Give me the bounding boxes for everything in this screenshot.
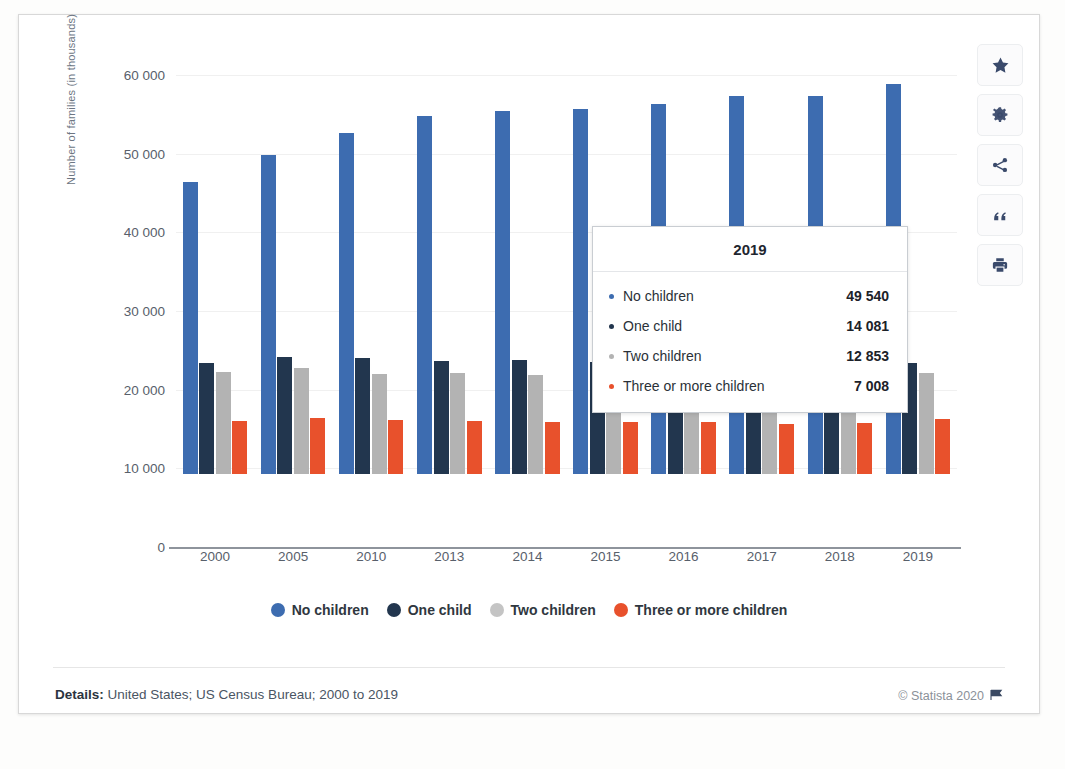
bar-group[interactable] bbox=[332, 75, 410, 474]
tooltip-row: Two children12 853 bbox=[593, 341, 907, 371]
legend-swatch-icon bbox=[387, 603, 401, 617]
y-tick-label: 40 000 bbox=[79, 225, 165, 240]
tooltip-row: Three or more children7 008 bbox=[593, 371, 907, 401]
favorite-star-button[interactable] bbox=[977, 44, 1023, 86]
bar[interactable] bbox=[919, 373, 934, 474]
bar[interactable] bbox=[339, 133, 354, 474]
chart-toolbar[interactable] bbox=[977, 44, 1029, 286]
tooltip-row-value: 49 540 bbox=[846, 288, 889, 304]
bar[interactable] bbox=[701, 422, 716, 474]
tooltip-series-dot-icon bbox=[609, 324, 614, 329]
x-tick-label: 2018 bbox=[801, 549, 879, 564]
x-tick-label: 2019 bbox=[879, 549, 957, 564]
print-icon bbox=[991, 256, 1009, 274]
chart-legend: No childrenOne childTwo childrenThree or… bbox=[19, 602, 1039, 618]
bar[interactable] bbox=[623, 422, 638, 474]
legend-swatch-icon bbox=[614, 603, 628, 617]
bar[interactable] bbox=[779, 424, 794, 474]
details-label: Details: bbox=[55, 687, 104, 702]
x-tick-label: 2013 bbox=[410, 549, 488, 564]
details-text: United States; US Census Bureau; 2000 to… bbox=[108, 687, 398, 702]
bar[interactable] bbox=[372, 374, 387, 474]
quote-icon bbox=[991, 206, 1010, 225]
bar[interactable] bbox=[277, 357, 292, 474]
tooltip-series-dot-icon bbox=[609, 294, 614, 299]
bar[interactable] bbox=[857, 423, 872, 474]
flag-icon bbox=[990, 689, 1003, 704]
tooltip-series-dot-icon bbox=[609, 384, 614, 389]
legend-label: Two children bbox=[511, 602, 596, 618]
x-tick-label: 2000 bbox=[176, 549, 254, 564]
x-tick-label: 2015 bbox=[566, 549, 644, 564]
x-tick-label: 2014 bbox=[488, 549, 566, 564]
bar[interactable] bbox=[232, 421, 247, 474]
bar[interactable] bbox=[450, 373, 465, 474]
tooltip-row-value: 12 853 bbox=[846, 348, 889, 364]
bar[interactable] bbox=[294, 368, 309, 474]
tooltip-row-value: 14 081 bbox=[846, 318, 889, 334]
bar-group[interactable] bbox=[410, 75, 488, 474]
legend-label: Three or more children bbox=[635, 602, 787, 618]
bar[interactable] bbox=[216, 372, 231, 474]
legend-item[interactable]: Three or more children bbox=[614, 602, 787, 618]
x-tick-label: 2017 bbox=[723, 549, 801, 564]
legend-swatch-icon bbox=[490, 603, 504, 617]
favorite-star-icon bbox=[991, 56, 1010, 75]
y-axis-title: Number of families (in thousands) bbox=[65, 0, 77, 185]
settings-gear-button[interactable] bbox=[977, 94, 1023, 136]
bar[interactable] bbox=[388, 420, 403, 474]
chart-card: Number of families (in thousands) 010 00… bbox=[18, 14, 1040, 714]
bar[interactable] bbox=[417, 116, 432, 474]
y-tick-label: 0 bbox=[79, 540, 165, 555]
y-tick-label: 10 000 bbox=[79, 461, 165, 476]
bar[interactable] bbox=[310, 418, 325, 474]
bar[interactable] bbox=[935, 419, 950, 474]
bar[interactable] bbox=[183, 182, 198, 474]
y-tick-label: 60 000 bbox=[79, 68, 165, 83]
legend-label: One child bbox=[408, 602, 472, 618]
footer-divider bbox=[53, 667, 1005, 668]
details-line: Details: United States; US Census Bureau… bbox=[55, 687, 398, 702]
bar[interactable] bbox=[467, 421, 482, 474]
print-button[interactable] bbox=[977, 244, 1023, 286]
bar[interactable] bbox=[545, 422, 560, 474]
tooltip-row-label: Three or more children bbox=[623, 378, 842, 394]
tooltip-row: One child14 081 bbox=[593, 311, 907, 341]
legend-swatch-icon bbox=[271, 603, 285, 617]
tooltip-series-dot-icon bbox=[609, 354, 614, 359]
x-tick-label: 2005 bbox=[254, 549, 332, 564]
copyright-text: © Statista 2020 bbox=[898, 689, 984, 703]
y-tick-label: 20 000 bbox=[79, 382, 165, 397]
tooltip-rows: No children49 540One child14 081Two chil… bbox=[593, 272, 907, 412]
tooltip-row-label: One child bbox=[623, 318, 834, 334]
bar[interactable] bbox=[434, 361, 449, 474]
x-tick-label: 2010 bbox=[332, 549, 410, 564]
tooltip-row: No children49 540 bbox=[593, 281, 907, 311]
bar[interactable] bbox=[261, 155, 276, 474]
share-icon bbox=[991, 156, 1009, 174]
bar[interactable] bbox=[573, 109, 588, 474]
copyright: © Statista 2020 bbox=[898, 689, 1003, 704]
tooltip-row-label: Two children bbox=[623, 348, 834, 364]
bar[interactable] bbox=[199, 363, 214, 474]
bar[interactable] bbox=[355, 358, 370, 474]
tooltip-row-label: No children bbox=[623, 288, 834, 304]
legend-item[interactable]: Two children bbox=[490, 602, 596, 618]
x-tick-label: 2016 bbox=[645, 549, 723, 564]
bar[interactable] bbox=[528, 375, 543, 474]
bar[interactable] bbox=[495, 111, 510, 474]
bar-group[interactable] bbox=[488, 75, 566, 474]
y-tick-label: 30 000 bbox=[79, 304, 165, 319]
tooltip-title: 2019 bbox=[593, 227, 907, 272]
share-button[interactable] bbox=[977, 144, 1023, 186]
y-tick-label: 50 000 bbox=[79, 146, 165, 161]
legend-item[interactable]: One child bbox=[387, 602, 472, 618]
tooltip-row-value: 7 008 bbox=[854, 378, 889, 394]
x-axis-labels: 2000200520102013201420152016201720182019 bbox=[176, 549, 957, 564]
legend-item[interactable]: No children bbox=[271, 602, 369, 618]
quote-button[interactable] bbox=[977, 194, 1023, 236]
bar[interactable] bbox=[512, 360, 527, 474]
bar-group[interactable] bbox=[254, 75, 332, 474]
settings-gear-icon bbox=[991, 106, 1009, 124]
bar-group[interactable] bbox=[176, 75, 254, 474]
